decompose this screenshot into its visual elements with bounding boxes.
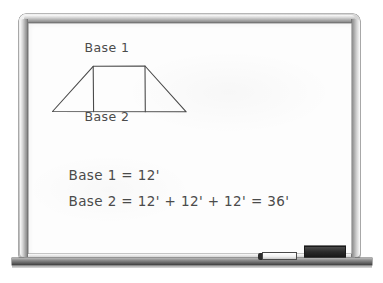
diagram-label-base1: Base 1 bbox=[85, 40, 130, 55]
trapezoid-outline bbox=[52, 66, 186, 112]
trapezoid-drawing bbox=[28, 23, 352, 254]
writing-surface[interactable]: Base 1 Base 2 Base 1 = 12' Base 2 = 12' … bbox=[28, 23, 352, 254]
diagram-label-base2: Base 2 bbox=[85, 109, 130, 124]
marker-tray bbox=[12, 258, 372, 265]
dry-erase-marker[interactable] bbox=[262, 252, 297, 260]
equation-line-1: Base 1 = 12' bbox=[69, 167, 160, 183]
frame-rail-right bbox=[351, 19, 360, 257]
marker-tray-lip bbox=[12, 265, 372, 268]
whiteboard-scene: Base 1 Base 2 Base 1 = 12' Base 2 = 12' … bbox=[0, 0, 383, 283]
equation-line-2: Base 2 = 12' + 12' + 12' = 36' bbox=[69, 193, 290, 209]
whiteboard: Base 1 Base 2 Base 1 = 12' Base 2 = 12' … bbox=[19, 14, 360, 262]
